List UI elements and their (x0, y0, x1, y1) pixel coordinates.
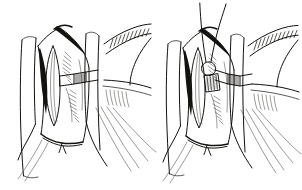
figure-canvas (0, 0, 302, 190)
surgical-illustration-figure: Two-stage surgical anastomosis line draw… (0, 0, 302, 190)
